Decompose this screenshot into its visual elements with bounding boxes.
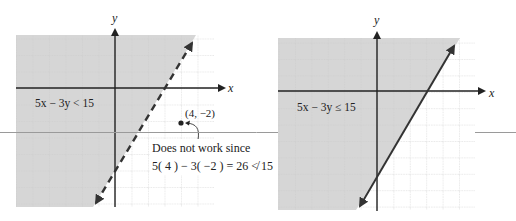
test-point [178, 120, 183, 125]
annotation-line-1: Does not work since [152, 141, 250, 155]
right-inequality-label: 5x − 3y ≤ 15 [297, 101, 356, 114]
right-y-axis-label: y [373, 13, 380, 27]
left-y-axis-label: y [111, 11, 118, 25]
left-graph: x y 5x − 3y < 15 (4, −2) [16, 11, 234, 207]
inequality-graphs: x y 5x − 3y < 15 (4, −2) Does not work s… [0, 0, 516, 221]
left-annotation: Does not work since 5( 4 ) − 3( −2 ) = 2… [150, 139, 278, 175]
left-x-axis-label: x [227, 81, 234, 95]
left-inequality-label: 5x − 3y < 15 [35, 97, 94, 110]
test-point-label: (4, −2) [185, 107, 215, 120]
right-x-axis-label: x [488, 86, 495, 100]
right-graph: x y 5x − 3y ≤ 15 [278, 13, 495, 211]
annotation-line-2: 5( 4 ) − 3( −2 ) = 26 ≮ 15 [152, 159, 273, 173]
